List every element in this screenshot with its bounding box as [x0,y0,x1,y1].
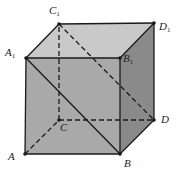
vertex-point-D [152,118,156,122]
vertex-label-C1: C1 [49,4,60,18]
vertex-label-A: A [7,150,15,162]
vertex-label-D: D [160,113,169,125]
vertex-point-B [118,152,122,156]
cube-diagram: ABCDA1B1C1D1 [0,0,179,173]
vertex-label-C: C [60,121,68,133]
vertex-point-C1 [57,22,61,26]
vertex-point-D1 [152,21,156,25]
vertex-label-A1: A1 [4,46,16,60]
vertex-label-D1: D1 [158,20,171,34]
vertex-point-A1 [24,56,28,60]
vertex-label-B: B [124,157,131,169]
vertex-point-A [23,152,27,156]
vertex-point-B1 [118,56,122,60]
